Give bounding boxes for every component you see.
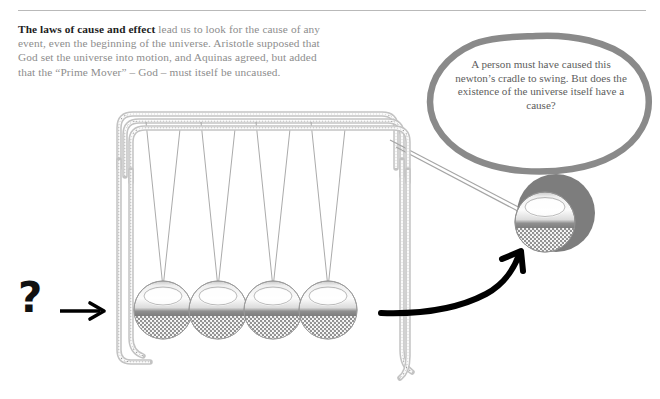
cradle-back-legs bbox=[119, 160, 412, 372]
ball-1 bbox=[134, 281, 192, 346]
cradle-strings bbox=[146, 122, 345, 288]
question-mark: ? bbox=[18, 277, 42, 319]
cradle-frame-front-rail bbox=[131, 128, 408, 182]
ball-3 bbox=[244, 281, 302, 346]
illustration-page: The laws of cause and effect lead us to … bbox=[0, 0, 660, 399]
speech-bubble-text: A person must have caused this newton’s … bbox=[455, 58, 627, 112]
ball-4 bbox=[299, 281, 357, 346]
left-pointer-arrow bbox=[60, 303, 104, 319]
cradle-balls bbox=[134, 281, 357, 346]
ball-2 bbox=[189, 281, 247, 346]
